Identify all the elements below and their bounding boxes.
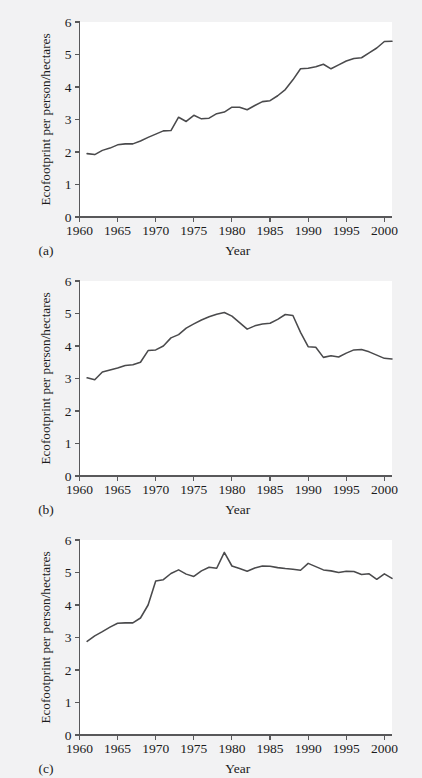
x-axis-tick-label: 1985 xyxy=(257,741,284,756)
y-axis-tick-label: 5 xyxy=(65,47,72,62)
y-axis-tick-label: 5 xyxy=(65,306,72,321)
y-axis-tick-label: 6 xyxy=(65,274,72,289)
y-axis-tick-label: 2 xyxy=(65,145,72,160)
x-axis-title: Year xyxy=(225,502,250,517)
x-axis-tick-label: 1980 xyxy=(218,223,245,238)
y-axis-tick-label: 4 xyxy=(65,339,72,354)
y-axis-tick-label: 6 xyxy=(65,15,72,30)
x-axis-tick-label: 1985 xyxy=(257,223,284,238)
x-axis-tick-label: 1970 xyxy=(142,482,169,497)
x-axis-title: Year xyxy=(225,761,250,776)
x-axis-tick-label: 1970 xyxy=(142,741,169,756)
panel-label: (b) xyxy=(38,502,54,517)
x-axis-tick-label: 2000 xyxy=(371,223,398,238)
x-axis-tick-label: 1960 xyxy=(66,741,93,756)
y-axis-tick-label: 3 xyxy=(65,112,72,127)
plot-area-background xyxy=(80,281,393,476)
chart-svg-a: 0123456196019651970197519801985199019952… xyxy=(0,0,422,260)
x-axis-tick-label: 2000 xyxy=(371,482,398,497)
chart-panel-c: 0123456196019651970197519801985199019952… xyxy=(0,518,422,778)
x-axis-tick-label: 1980 xyxy=(218,741,245,756)
panel-label: (a) xyxy=(39,243,54,258)
x-axis-tick-label: 1975 xyxy=(180,223,207,238)
figure-container: 0123456196019651970197519801985199019952… xyxy=(0,0,422,778)
x-axis-tick-label: 1995 xyxy=(333,741,360,756)
x-axis-tick-label: 1960 xyxy=(66,482,93,497)
x-axis-title: Year xyxy=(225,243,250,258)
x-axis-tick-label: 1990 xyxy=(295,741,322,756)
y-axis-tick-label: 3 xyxy=(65,630,72,645)
y-axis-tick-label: 1 xyxy=(65,177,72,192)
x-axis-tick-label: 1965 xyxy=(104,482,131,497)
x-axis-tick-label: 1995 xyxy=(333,223,360,238)
x-axis-tick-label: 1990 xyxy=(295,482,322,497)
plot-area-background xyxy=(80,22,393,217)
x-axis-tick-label: 1965 xyxy=(104,223,131,238)
chart-panel-b: 0123456196019651970197519801985199019952… xyxy=(0,259,422,519)
y-axis-tick-label: 3 xyxy=(65,371,72,386)
x-axis-tick-label: 1995 xyxy=(333,482,360,497)
x-axis-tick-label: 1960 xyxy=(66,223,93,238)
x-axis-tick-label: 1975 xyxy=(180,741,207,756)
y-axis-title: Ecofootprint per person/hectares xyxy=(38,292,53,464)
chart-svg-c: 0123456196019651970197519801985199019952… xyxy=(0,518,422,778)
y-axis-tick-label: 1 xyxy=(65,436,72,451)
x-axis-tick-label: 1970 xyxy=(142,223,169,238)
y-axis-tick-label: 4 xyxy=(65,598,72,613)
y-axis-tick-label: 2 xyxy=(65,663,72,678)
x-axis-tick-label: 1990 xyxy=(295,223,322,238)
panel-label: (c) xyxy=(39,761,54,776)
y-axis-tick-label: 1 xyxy=(65,695,72,710)
y-axis-title: Ecofootprint per person/hectares xyxy=(38,551,53,723)
chart-panel-a: 0123456196019651970197519801985199019952… xyxy=(0,0,422,260)
y-axis-title: Ecofootprint per person/hectares xyxy=(38,33,53,205)
x-axis-tick-label: 1985 xyxy=(257,482,284,497)
x-axis-tick-label: 1965 xyxy=(104,741,131,756)
y-axis-tick-label: 5 xyxy=(65,565,72,580)
x-axis-tick-label: 2000 xyxy=(371,741,398,756)
y-axis-tick-label: 6 xyxy=(65,533,72,548)
y-axis-tick-label: 4 xyxy=(65,80,72,95)
y-axis-tick-label: 2 xyxy=(65,404,72,419)
x-axis-tick-label: 1975 xyxy=(180,482,207,497)
chart-svg-b: 0123456196019651970197519801985199019952… xyxy=(0,259,422,519)
x-axis-tick-label: 1980 xyxy=(218,482,245,497)
plot-area-background xyxy=(80,540,393,735)
